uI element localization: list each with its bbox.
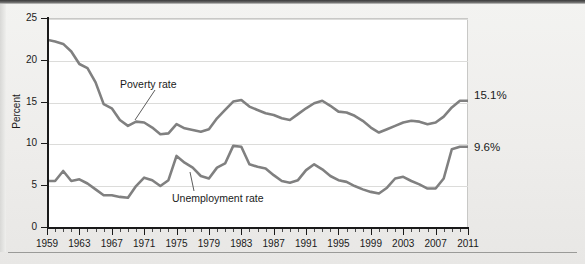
x-tick-minor-2004 bbox=[411, 229, 412, 232]
x-tick-minor-1985 bbox=[258, 229, 259, 232]
x-tick-minor-1993 bbox=[322, 229, 323, 232]
x-tick-minor-1961 bbox=[63, 229, 64, 232]
y-tick-10 bbox=[41, 143, 47, 144]
y-tick-15 bbox=[41, 102, 47, 103]
x-tick-major-1967 bbox=[112, 229, 113, 235]
x-tick-major-1971 bbox=[144, 229, 145, 235]
x-tick-minor-2008 bbox=[444, 229, 445, 232]
x-tick-major-1999 bbox=[371, 229, 372, 235]
x-tick-minor-1980 bbox=[217, 229, 218, 232]
poverty-rate-line bbox=[47, 40, 468, 134]
y-tick-0 bbox=[41, 227, 47, 228]
x-tick-minor-1998 bbox=[363, 229, 364, 232]
x-tick-minor-1992 bbox=[314, 229, 315, 232]
x-tick-minor-1988 bbox=[282, 229, 283, 232]
x-tick-minor-2005 bbox=[419, 229, 420, 232]
x-tick-minor-1982 bbox=[233, 229, 234, 232]
x-tick-minor-1990 bbox=[298, 229, 299, 232]
y-tick-5 bbox=[41, 185, 47, 186]
x-tick-minor-1962 bbox=[71, 229, 72, 232]
y-axis-title: Percent bbox=[11, 82, 22, 142]
x-tick-minor-1997 bbox=[355, 229, 356, 232]
x-tick-minor-2009 bbox=[452, 229, 453, 232]
poverty-rate-end-value: 15.1% bbox=[474, 89, 507, 101]
x-tick-minor-1969 bbox=[128, 229, 129, 232]
x-tick-minor-1968 bbox=[120, 229, 121, 232]
x-tick-major-1979 bbox=[209, 229, 210, 235]
x-tick-minor-1996 bbox=[347, 229, 348, 232]
x-tick-minor-1970 bbox=[136, 229, 137, 232]
x-tick-minor-2002 bbox=[395, 229, 396, 232]
x-tick-minor-1978 bbox=[201, 229, 202, 232]
x-tick-minor-1984 bbox=[249, 229, 250, 232]
x-tick-minor-1974 bbox=[168, 229, 169, 232]
x-tick-minor-1981 bbox=[225, 229, 226, 232]
x-tick-minor-1965 bbox=[96, 229, 97, 232]
x-tick-major-2003 bbox=[403, 229, 404, 235]
x-tick-minor-1994 bbox=[330, 229, 331, 232]
y-tick-25 bbox=[41, 18, 47, 19]
x-tick-minor-2000 bbox=[379, 229, 380, 232]
unemployment-rate-line bbox=[47, 146, 468, 198]
x-tick-minor-1966 bbox=[104, 229, 105, 232]
x-tick-major-1995 bbox=[338, 229, 339, 235]
x-tick-minor-1976 bbox=[185, 229, 186, 232]
x-tick-major-2011 bbox=[468, 229, 469, 235]
x-tick-major-1959 bbox=[47, 229, 48, 235]
unemployment-rate-end-value: 9.6% bbox=[474, 141, 500, 153]
x-tick-minor-1972 bbox=[152, 229, 153, 232]
x-tick-major-1987 bbox=[274, 229, 275, 235]
x-tick-minor-1986 bbox=[266, 229, 267, 232]
x-tick-minor-2001 bbox=[387, 229, 388, 232]
x-tick-major-1975 bbox=[177, 229, 178, 235]
x-tick-major-1991 bbox=[306, 229, 307, 235]
x-tick-minor-1973 bbox=[160, 229, 161, 232]
x-tick-major-1963 bbox=[79, 229, 80, 235]
x-tick-minor-1977 bbox=[193, 229, 194, 232]
x-tick-minor-1964 bbox=[87, 229, 88, 232]
y-axis-label-25: 25 bbox=[17, 13, 37, 23]
line-chart-figure: 25 20 15 10 5 0 Percent 1959196319671971… bbox=[0, 0, 585, 264]
y-tick-20 bbox=[41, 60, 47, 61]
x-tick-major-2007 bbox=[436, 229, 437, 235]
x-tick-minor-2010 bbox=[460, 229, 461, 232]
x-tick-minor-2006 bbox=[428, 229, 429, 232]
x-axis-label-2011: 2011 bbox=[448, 238, 488, 249]
x-tick-major-1983 bbox=[241, 229, 242, 235]
y-axis-label-0: 0 bbox=[17, 222, 37, 232]
x-tick-minor-1989 bbox=[290, 229, 291, 232]
y-axis-line bbox=[47, 17, 49, 228]
unemployment-rate-annotation: Unemployment rate bbox=[172, 192, 264, 204]
x-tick-minor-1960 bbox=[55, 229, 56, 232]
y-axis-label-5: 5 bbox=[17, 180, 37, 190]
y-axis-label-20: 20 bbox=[17, 55, 37, 65]
poverty-rate-annotation: Poverty rate bbox=[120, 78, 177, 90]
